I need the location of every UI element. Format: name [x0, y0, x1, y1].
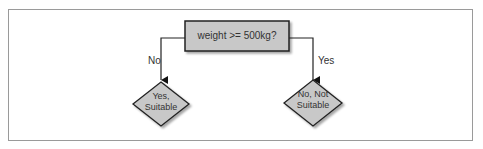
leaf-label-right-line1: No, Not [284, 89, 342, 99]
leaf-label-left-line2: Suitable [133, 102, 189, 112]
edge-no [161, 38, 185, 80]
edge-label-no: No [148, 55, 161, 66]
leaf-label-right-line2: Suitable [284, 100, 342, 110]
edge-yes [289, 38, 313, 80]
decision-label: weight >= 500kg? [185, 30, 289, 41]
leaf-label-left-line1: Yes, [133, 91, 189, 101]
diagram-canvas [0, 0, 483, 149]
edge-label-yes: Yes [318, 55, 334, 66]
